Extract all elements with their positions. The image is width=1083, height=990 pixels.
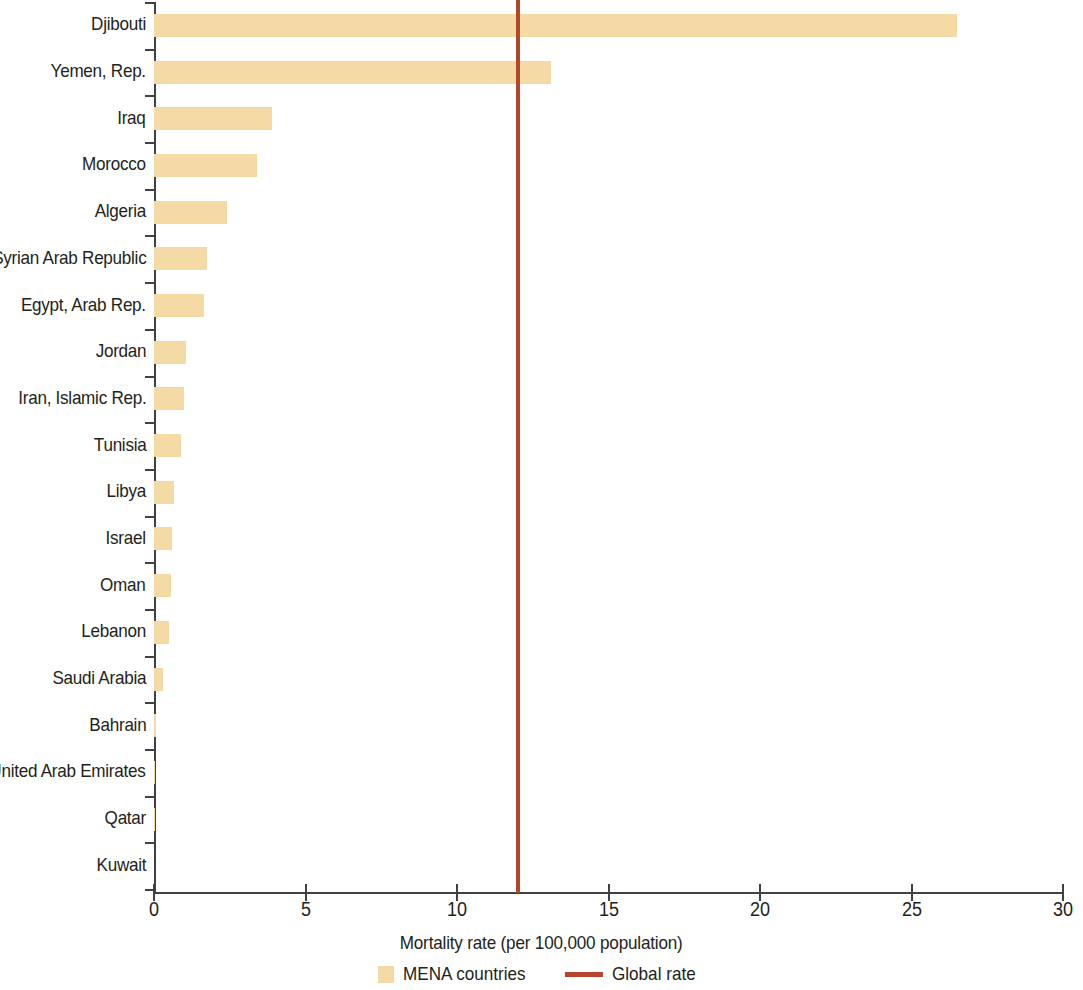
x-axis-tick-label: 15 (598, 898, 618, 921)
mortality-rate-bar-chart: DjiboutiYemen, Rep.IraqMoroccoAlgeriaSyr… (0, 0, 1083, 990)
legend-swatch-bar-icon (378, 966, 394, 983)
x-axis-title: Mortality rate (per 100,000 population) (0, 932, 1083, 954)
x-axis-tick-label: 0 (149, 898, 159, 921)
legend-entry-global-rate: Global rate (565, 963, 705, 985)
x-axis-tick-label: 25 (901, 898, 921, 921)
x-axis-tick-label: 10 (447, 898, 467, 921)
x-axis-tick-inner (305, 884, 307, 893)
x-axis-ticks: 051015202530 (0, 0, 1083, 990)
legend-label-global-rate: Global rate (612, 963, 696, 985)
x-axis-tick-inner (608, 884, 610, 893)
x-axis-title-text: Mortality rate (per 100,000 population) (400, 932, 683, 954)
x-axis-tick-inner (1062, 884, 1064, 893)
x-axis-tick-label: 30 (1053, 898, 1073, 921)
x-axis-tick-inner (911, 884, 913, 893)
x-axis-tick-inner (759, 884, 761, 893)
legend-label-mena-countries: MENA countries (403, 963, 526, 985)
x-axis-tick-label: 5 (300, 898, 310, 921)
x-axis-tick-inner (456, 884, 458, 893)
legend-swatch-line-icon (565, 972, 603, 977)
chart-legend: MENA countries Global rate (0, 963, 1083, 985)
legend-entry-mena-countries: MENA countries (378, 963, 539, 985)
x-axis-tick-inner (153, 884, 155, 893)
x-axis-tick-label: 20 (750, 898, 770, 921)
